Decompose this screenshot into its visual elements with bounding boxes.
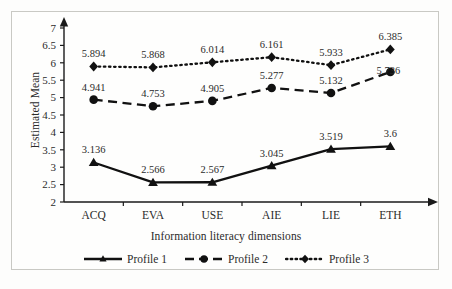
chart-figure: 22.533.544.555.566.57ACQEVAUSEAIELIEETH3… xyxy=(0,0,452,289)
data-point-label: 5.277 xyxy=(260,70,284,81)
data-point-label: 6.161 xyxy=(260,39,284,50)
x-axis-category-label: AIE xyxy=(262,209,281,221)
series-line xyxy=(94,72,391,106)
data-point-label: 4.753 xyxy=(141,88,165,99)
data-point-label: 5.933 xyxy=(319,47,343,58)
x-axis-title: Information literacy dimensions xyxy=(12,230,440,242)
series-profile-1: 3.1362.5662.5673.0453.5193.6 xyxy=(82,128,397,186)
data-point-label: 5.736 xyxy=(377,65,401,76)
data-point-label: 4.905 xyxy=(201,83,225,94)
data-point-label: 5.868 xyxy=(141,49,165,60)
y-axis-tick-label: 3.5 xyxy=(42,144,56,156)
legend-swatch-solid-triangle-icon xyxy=(83,252,123,266)
data-point-marker xyxy=(149,62,158,72)
chart-legend: Profile 1 Profile 2 Profile 3 xyxy=(12,252,440,266)
data-point-label: 5.132 xyxy=(319,75,343,86)
legend-swatch-dotted-diamond-icon xyxy=(285,252,325,266)
y-axis-tick-label: 5 xyxy=(51,91,57,103)
y-axis-tick-label: 4.5 xyxy=(42,109,56,121)
data-point-label: 3.045 xyxy=(260,148,284,159)
data-point-marker xyxy=(327,60,336,70)
legend-item-profile-1: Profile 1 xyxy=(83,252,167,266)
data-point-label: 3.519 xyxy=(319,131,343,142)
data-point-marker xyxy=(208,97,217,106)
data-point-marker xyxy=(267,52,276,62)
y-axis-tick-label: 7 xyxy=(51,22,57,34)
y-axis-tick-label: 6 xyxy=(51,57,57,69)
data-point-marker xyxy=(89,158,99,166)
y-axis-tick-label: 3 xyxy=(51,161,57,173)
data-point-marker xyxy=(208,57,217,67)
chart-frame: 22.533.544.555.566.57ACQEVAUSEAIELIEETH3… xyxy=(11,11,439,270)
data-point-marker xyxy=(89,95,98,104)
x-axis-category-label: LIE xyxy=(322,209,340,221)
x-axis-arrow-icon xyxy=(428,198,438,206)
x-axis-category-label: EVA xyxy=(142,209,165,221)
legend-label: Profile 3 xyxy=(329,253,369,265)
data-point-label: 4.941 xyxy=(82,82,106,93)
legend-label: Profile 2 xyxy=(228,253,268,265)
series-line xyxy=(94,49,391,67)
y-axis-title: Estimated Mean xyxy=(29,40,41,180)
y-axis-tick-label: 6.5 xyxy=(42,39,56,51)
data-point-label: 2.566 xyxy=(141,164,165,175)
legend-item-profile-3: Profile 3 xyxy=(285,252,369,266)
legend-label: Profile 1 xyxy=(127,253,167,265)
series-line xyxy=(94,146,391,182)
data-point-marker xyxy=(386,45,395,55)
legend-item-profile-2: Profile 2 xyxy=(184,252,268,266)
data-point-label: 2.567 xyxy=(201,164,225,175)
x-axis-category-label: USE xyxy=(201,209,223,221)
data-point-label: 5.894 xyxy=(82,48,106,59)
y-axis-tick-label: 5.5 xyxy=(42,74,56,86)
x-axis-category-label: ETH xyxy=(379,209,401,221)
data-point-marker xyxy=(149,102,158,111)
data-point-label: 3.6 xyxy=(384,128,397,139)
data-point-label: 3.136 xyxy=(82,144,106,155)
data-point-label: 6.014 xyxy=(201,44,225,55)
series-profile-2: 4.9414.7534.9055.2775.1325.736 xyxy=(82,65,400,111)
data-point-marker xyxy=(327,89,336,98)
x-axis-category-label: ACQ xyxy=(82,209,107,221)
data-point-marker xyxy=(89,62,98,72)
y-axis-arrow-icon xyxy=(60,17,68,27)
y-axis-tick-label: 2.5 xyxy=(42,178,56,190)
data-point-marker xyxy=(267,84,276,93)
y-axis-tick-label: 4 xyxy=(51,126,57,138)
y-axis-tick-label: 2 xyxy=(51,196,57,208)
series-profile-3: 5.8945.8686.0146.1615.9336.385 xyxy=(82,31,402,72)
legend-swatch-dashed-circle-icon xyxy=(184,252,224,266)
data-point-label: 6.385 xyxy=(379,31,403,42)
